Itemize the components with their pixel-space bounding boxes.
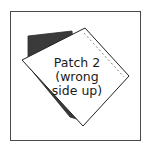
patch-diagram: Patch 2 (wrong side up) [0,0,151,152]
patch-label-line-2: (wrong [55,69,98,84]
patch-label-line-3: side up) [52,83,102,98]
patch-label-line-1: Patch 2 [54,55,100,70]
